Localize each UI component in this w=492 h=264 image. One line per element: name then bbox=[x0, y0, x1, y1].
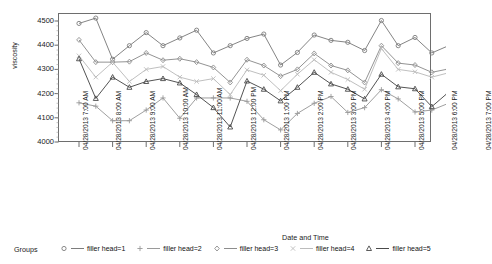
legend-item-5[interactable]: filler head=5 bbox=[365, 244, 430, 253]
x-tick-8: 04/28/2013 2:00 PM bbox=[317, 91, 324, 150]
legend-line-5 bbox=[376, 248, 389, 249]
series-3 bbox=[77, 37, 446, 85]
x-tick-12: 04/28/2013 6:00 PM bbox=[451, 91, 458, 150]
x-tick-13: 04/28/2013 7:00 PM bbox=[485, 91, 492, 150]
x-tick-11: 04/28/2013 5:00 PM bbox=[418, 91, 425, 150]
legend-line-4 bbox=[300, 248, 313, 249]
legend-items: filler head=1filler head=2filler head=3f… bbox=[60, 244, 431, 253]
diamond-marker bbox=[213, 244, 221, 253]
y-tick-marks bbox=[55, 21, 59, 142]
x-marker bbox=[289, 244, 297, 253]
x-axis-title: Date and Time bbox=[282, 233, 329, 242]
triangle-marker bbox=[365, 244, 373, 253]
legend-line-3 bbox=[224, 248, 237, 249]
x-tick-9: 04/28/2013 3:00 PM bbox=[350, 91, 357, 150]
x-tick-7: 04/28/2013 1:00 PM bbox=[283, 91, 290, 150]
x-tick-2: 04/28/2013 8:00 AM bbox=[115, 91, 122, 150]
x-tick-3: 04/28/2013 9:00 AM bbox=[149, 91, 156, 150]
legend: Groups filler head=1filler head=2filler … bbox=[0, 242, 446, 256]
legend-item-3[interactable]: filler head=3 bbox=[213, 244, 278, 253]
legend-line-2 bbox=[147, 248, 160, 249]
legend-label-4: filler head=4 bbox=[316, 245, 354, 252]
legend-label-5: filler head=5 bbox=[392, 245, 430, 252]
x-tick-4: 04/28/2013 10:00 AM bbox=[182, 87, 189, 150]
x-tick-6: 04/28/2013 12:00 PM bbox=[250, 87, 257, 150]
legend-label-2: filler head=2 bbox=[163, 245, 201, 252]
legend-item-2[interactable]: filler head=2 bbox=[136, 244, 201, 253]
x-tick-5: 04/28/2013 11:00 AM bbox=[216, 88, 223, 150]
legend-item-1[interactable]: filler head=1 bbox=[60, 244, 125, 253]
circle-marker bbox=[60, 244, 68, 253]
plus-marker bbox=[136, 244, 144, 253]
legend-label-3: filler head=3 bbox=[240, 245, 278, 252]
x-tick-1: 04/28/2013 7:00 AM bbox=[82, 91, 89, 150]
x-tick-10: 04/28/2013 4:00 PM bbox=[384, 91, 391, 150]
legend-title: Groups bbox=[14, 245, 38, 254]
legend-line-1 bbox=[71, 248, 84, 249]
legend-item-4[interactable]: filler head=4 bbox=[289, 244, 354, 253]
legend-label-1: filler head=1 bbox=[87, 245, 125, 252]
plot-area bbox=[0, 0, 446, 150]
